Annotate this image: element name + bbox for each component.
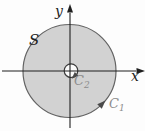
annulus-diagram: y x S C2 C1 xyxy=(0,0,145,131)
inner-curve-label-main: C xyxy=(74,73,84,88)
inner-curve-label-subscript: 2 xyxy=(84,80,90,90)
outer-curve-label-main: C xyxy=(109,96,119,111)
outer-curve-label-subscript: 1 xyxy=(119,103,125,113)
x-axis-label: x xyxy=(131,69,139,83)
inner-curve-label: C2 xyxy=(74,74,90,87)
outer-curve-label: C1 xyxy=(109,97,125,110)
region-label: S xyxy=(29,33,39,48)
y-axis-label: y xyxy=(55,4,63,18)
